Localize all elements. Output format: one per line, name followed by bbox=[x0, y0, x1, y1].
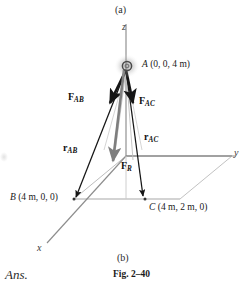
vector-label-f-ab: FAB bbox=[68, 92, 84, 104]
axis-label-y: y bbox=[234, 148, 238, 158]
point-b-marker bbox=[73, 198, 76, 201]
panel-tag-a: (a) bbox=[115, 5, 126, 15]
f-ab-subscript: AB bbox=[74, 96, 84, 104]
vector-r-ac bbox=[126, 70, 143, 196]
point-a-marker bbox=[114, 54, 140, 78]
figure-caption: Fig. 2–40 bbox=[113, 270, 150, 280]
point-label-b: B (4 m, 0, 0) bbox=[10, 193, 58, 203]
point-c-coords: (4 m, 2 m, 0) bbox=[158, 202, 208, 212]
answer-tag: Ans. bbox=[5, 268, 28, 281]
r-ac-subscript: AC bbox=[148, 136, 158, 144]
figure-page: (a) z y x A (0, 0, 4 m) B (4 m, 0, 0) C … bbox=[0, 0, 248, 283]
scan-artifact bbox=[0, 152, 8, 162]
ground-plane bbox=[74, 156, 232, 199]
axis-label-x: x bbox=[37, 243, 41, 253]
vector-label-f-r: FR bbox=[121, 161, 132, 173]
vector-label-r-ac: rAC bbox=[144, 132, 158, 144]
panel-tag-b: (b) bbox=[117, 253, 129, 263]
point-a-coords: (0, 0, 4 m) bbox=[150, 59, 190, 69]
point-c-marker bbox=[144, 198, 147, 201]
vector-label-r-ab: rAB bbox=[63, 143, 77, 155]
point-b-coords: (4 m, 0, 0) bbox=[18, 192, 58, 202]
axis-label-z: z bbox=[122, 22, 126, 32]
vector-label-f-ac: FAC bbox=[139, 96, 155, 108]
point-label-c: C (4 m, 2 m, 0) bbox=[149, 203, 207, 213]
f-r-subscript: R bbox=[127, 165, 132, 173]
construction-lines bbox=[104, 70, 142, 199]
free-body-diagram bbox=[0, 0, 248, 283]
point-label-a: A (0, 0, 4 m) bbox=[142, 60, 190, 70]
f-ac-subscript: AC bbox=[145, 100, 155, 108]
r-ab-subscript: AB bbox=[67, 147, 77, 155]
vector-r-ab bbox=[76, 70, 126, 197]
